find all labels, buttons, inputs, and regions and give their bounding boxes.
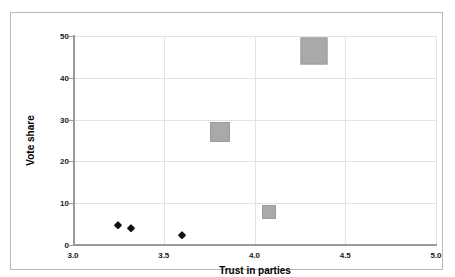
x-tick-label-3.5: 3.5 [158, 251, 169, 260]
y-tick-mark-20 [69, 161, 73, 162]
x-tick-labels: 3.03.54.04.55.0 [73, 251, 437, 263]
y-tick-label-40: 40 [60, 73, 69, 82]
y-axis-line [73, 35, 75, 246]
y-tick-label-30: 30 [60, 115, 69, 124]
gridline-x-4 [436, 36, 437, 245]
x-tick-label-4.5: 4.5 [340, 251, 351, 260]
y-tick-label-10: 10 [60, 199, 69, 208]
data-point-large-parties-1 [210, 122, 230, 142]
gridline-x-2 [255, 36, 256, 245]
y-tick-mark-10 [69, 203, 73, 204]
gridline-x-3 [345, 36, 346, 245]
y-tick-mark-30 [69, 120, 73, 121]
y-tick-mark-40 [69, 78, 73, 79]
y-tick-mark-0 [69, 245, 73, 246]
gridline-x-1 [164, 36, 165, 245]
y-axis-title-text: Vote share [25, 115, 36, 165]
x-axis-line [73, 244, 437, 246]
y-tick-mark-50 [69, 36, 73, 37]
clipped-top-text [60, 0, 400, 8]
figure-frame: 01020304050 3.03.54.04.55.0 Trust in par… [10, 12, 443, 270]
data-point-large-parties-0 [262, 205, 276, 219]
data-point-large-parties-2 [301, 37, 328, 64]
y-tick-label-20: 20 [60, 157, 69, 166]
y-axis-title: Vote share [23, 79, 37, 201]
x-tick-label-4.0: 4.0 [249, 251, 260, 260]
x-axis-title: Trust in parties [73, 265, 437, 276]
y-tick-label-50: 50 [60, 32, 69, 41]
x-tick-label-3.0: 3.0 [67, 251, 78, 260]
plot-area [73, 36, 436, 245]
x-tick-label-5.0: 5.0 [430, 251, 441, 260]
y-tick-labels: 01020304050 [49, 36, 69, 245]
